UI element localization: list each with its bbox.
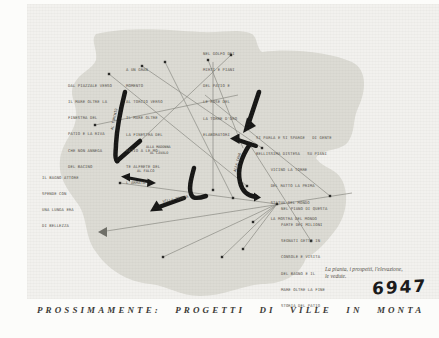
text-line: MIRTI E PIANI [203, 67, 237, 72]
text-block-e: IL BAGNO ATTORE SPENDE CON UNA LUNGA ERA… [42, 164, 79, 240]
text-line: PATIO E LA RIVA [68, 131, 112, 136]
text-line: DEL RATTO LA PRIMA [256, 183, 332, 188]
page-caption: PROSSIMAMENTE: PROGETTI DI VILLE IN MONT… [37, 305, 439, 315]
scan-page: AL FALCO ALLA MADONNA AL CAVALO AL TORCH… [0, 0, 439, 338]
text-line: CHE NON ANNEGA [68, 148, 112, 153]
text-line: NEL PIANO DI QUESTA [281, 206, 327, 211]
text-line: DAL PIAZZALE VERSO [68, 83, 112, 88]
text-line: A UN GRAN [126, 67, 163, 72]
text-line: MARE OLTRE LA FINE [281, 287, 327, 292]
node-dot [119, 182, 121, 184]
node-dot [242, 248, 244, 250]
text-line: PATIO A LE MO- [126, 148, 163, 153]
text-line: SEGNATI GETTO IN [281, 238, 327, 243]
text-line: ELABORATORI [203, 132, 237, 137]
text-line: AL TORCIO VERSO [126, 99, 163, 104]
text-line: IL BAGNO ATTORE [42, 175, 79, 180]
text-line: UNA LUNGA ERA [42, 207, 79, 212]
text-line: MOMENTO [126, 83, 163, 88]
text-line: SPENDE CON [42, 191, 79, 196]
node-dot [252, 221, 254, 223]
text-line: VICINO LA TORRE [256, 167, 332, 172]
text-line: NEL GOLFO DEI [203, 51, 237, 56]
text-line: BELLISSIMA DISTESA SU PIANI [256, 151, 332, 156]
handwritten-number: 6947 [372, 276, 428, 299]
text-line: DEL PATIO E [203, 83, 237, 88]
text-block-f: NEL PIANO DI QUESTA PARTE DEI MILIONI SE… [281, 195, 327, 319]
text-line: IL MARE OLTRE [126, 115, 163, 120]
photo-note-line: La pianta, i prospetti, l'elevazione, [325, 266, 437, 273]
text-line: PARTE DEI MILIONI [281, 222, 327, 227]
text-line: TE ALFRETE DEL [126, 164, 163, 169]
text-line: LA FINESTRA DEL [126, 132, 163, 137]
text-line: DI BELLEZZA [42, 223, 79, 228]
node-dot [232, 197, 234, 199]
text-line: IL MARE OLTRE LA [68, 99, 112, 104]
text-line: SI PARLA E SI SPARGE DI GENTE [256, 135, 332, 140]
text-line: LE ROSE DEL [203, 99, 237, 104]
node-dot [212, 189, 214, 191]
node-dot [246, 185, 248, 187]
text-block-b: A UN GRAN MOMENTO AL TORCIO VERSO IL MAR… [126, 56, 163, 197]
text-line: FINESTRA DEL [68, 115, 112, 120]
text-line: DEL BAGNO E IL [281, 271, 327, 276]
text-line: L'ARMATA [126, 180, 163, 185]
text-line: CONSOLE E VISITA [281, 254, 327, 259]
node-dot [221, 256, 223, 258]
text-block-c: NEL GOLFO DEI MIRTI E PIANI DEL PATIO E … [203, 40, 237, 148]
node-dot [162, 256, 164, 258]
node-dot [164, 61, 166, 63]
text-line: LA TORRE D'ORO [203, 116, 237, 121]
